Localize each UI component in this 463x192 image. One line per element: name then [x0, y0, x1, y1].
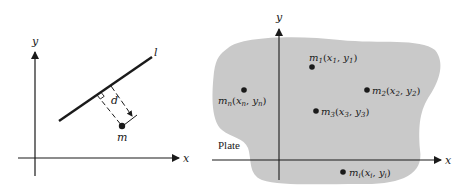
point-mn: [241, 87, 247, 93]
line-l-label: l: [154, 46, 158, 59]
perpendicular-dashed: [97, 95, 122, 126]
right-diagram: y x Plate m1(x1, y1) m2(x2, y2) mn(xn, y…: [212, 11, 452, 184]
left-diagram: y x l d m: [18, 35, 190, 176]
line-l: [59, 57, 152, 121]
point-m2: [364, 87, 370, 93]
plate-label: Plate: [218, 139, 240, 151]
left-y-axis-label: y: [31, 35, 39, 48]
distance-label: d: [111, 94, 118, 107]
point-m3: [313, 108, 319, 114]
distance-tick: [124, 115, 137, 125]
point-mi: [340, 169, 346, 175]
figure-canvas: y x l d m y x Plate m1(x1, y1): [0, 0, 463, 192]
mass-label-m: m: [117, 131, 127, 144]
left-x-axis-label: x: [183, 152, 190, 165]
right-y-axis-label: y: [275, 11, 283, 24]
point-m1: [309, 64, 315, 70]
mass-point-m: [119, 123, 125, 129]
right-x-axis-label: x: [445, 154, 452, 167]
